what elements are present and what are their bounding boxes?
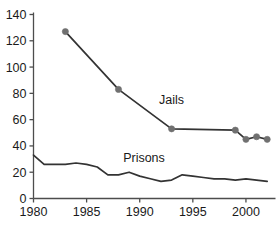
x-tick-label: 2000 [232, 205, 260, 219]
data-point-marker [253, 134, 259, 140]
data-point-marker [243, 136, 249, 142]
data-point-marker [62, 28, 68, 34]
x-tick-label: 1990 [126, 205, 154, 219]
chart-container: Rate per 100,000 residents 0204060801001… [0, 0, 276, 227]
y-tick-label: 120 [6, 34, 27, 48]
data-point-marker [232, 127, 238, 133]
x-axis-ticks: 19801985199019952000 [20, 199, 260, 219]
y-tick-label: 80 [13, 87, 27, 101]
data-point-marker [264, 136, 270, 142]
x-tick-label: 1995 [179, 205, 207, 219]
x-tick-label: 1980 [20, 205, 48, 219]
y-tick-label: 140 [6, 8, 27, 22]
line-chart-plot: 020406080100120140 19801985199019952000 … [0, 0, 276, 227]
series-annotation-jails: Jails [159, 93, 184, 107]
data-point-marker [168, 126, 174, 132]
y-tick-label: 20 [13, 166, 27, 180]
series-line-jails [65, 32, 267, 140]
y-tick-label: 40 [13, 139, 27, 153]
y-axis-ticks: 020406080100120140 [6, 8, 34, 206]
series-annotation-prisons: Prisons [123, 151, 165, 165]
x-tick-label: 1985 [73, 205, 101, 219]
data-point-marker [115, 86, 121, 92]
axes [34, 13, 276, 199]
y-tick-label: 60 [13, 113, 27, 127]
y-tick-label: 100 [6, 61, 27, 75]
